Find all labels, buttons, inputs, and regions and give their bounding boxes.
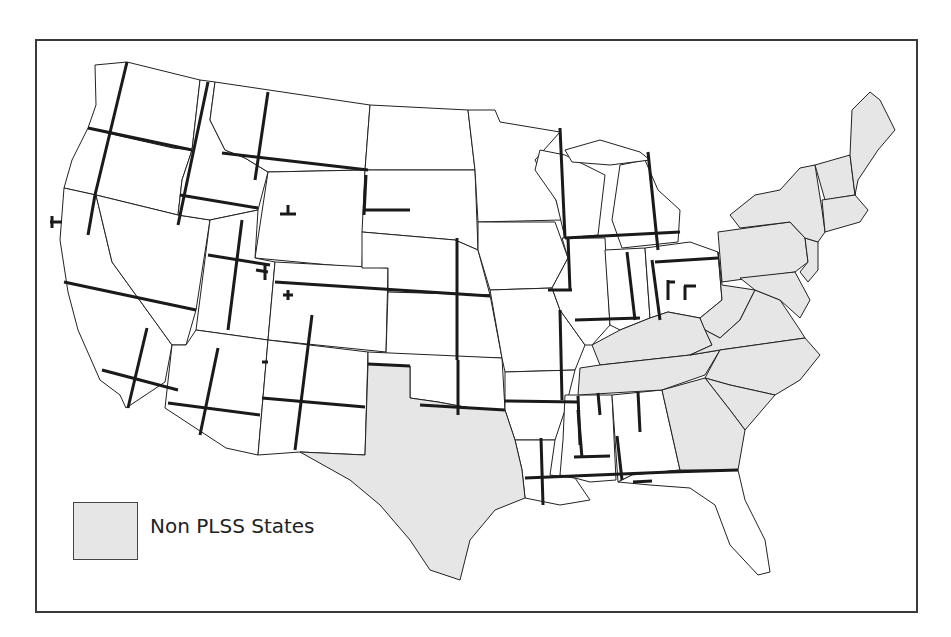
state-north-dakota	[365, 105, 475, 170]
legend-swatch-non-plss	[73, 502, 138, 560]
state-florida	[618, 470, 770, 575]
state-wyoming	[255, 170, 365, 268]
state-mississippi	[560, 395, 616, 482]
us-plss-map	[0, 0, 951, 637]
state-iowa	[478, 222, 568, 290]
state-michigan-upper	[565, 140, 650, 165]
legend-label-non-plss: Non PLSS States	[150, 514, 315, 538]
state-colorado	[268, 262, 388, 352]
state-maine	[850, 92, 895, 195]
state-new-mexico	[258, 340, 368, 455]
state-kansas	[386, 292, 502, 358]
state-vermont-nh	[815, 155, 855, 200]
state-ohio	[645, 242, 722, 318]
state-southern-new-england	[822, 195, 868, 232]
